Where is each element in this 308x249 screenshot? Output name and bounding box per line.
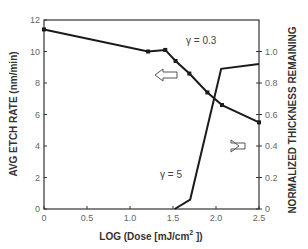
x-tick-label: 1.5 <box>167 213 180 223</box>
plot-frame <box>44 20 259 209</box>
x-tick-label: 0.5 <box>81 213 94 223</box>
y2-tick-label: 0.4 <box>265 141 278 151</box>
gamma-5-annotation: γ = 5 <box>160 169 182 180</box>
etch-rate-line <box>44 29 259 122</box>
series <box>42 27 261 209</box>
y-axis-label: AVG ETCH RATE (nm/min) <box>8 51 19 176</box>
data-point <box>146 50 150 54</box>
etch-rate-chart: 00.51.01.52.02.502468101200.20.40.60.81.… <box>0 0 308 249</box>
data-point <box>187 72 191 76</box>
data-point <box>42 27 46 31</box>
thickness-line <box>175 64 259 209</box>
y-tick-label: 10 <box>30 47 40 57</box>
y-tick-label: 0 <box>35 204 40 214</box>
y-tick-label: 2 <box>35 173 40 183</box>
x-axis-label: LOG (Dose [mJ/cm2 ]) <box>99 229 202 242</box>
y-tick-label: 8 <box>35 78 40 88</box>
x-tick-label: 1.0 <box>124 213 137 223</box>
axes: 00.51.01.52.02.502468101200.20.40.60.81.… <box>30 15 278 223</box>
y2-axis-label: NORMALIZED THICKNESS REMAINING <box>287 26 298 213</box>
right-arrow-icon <box>231 140 245 152</box>
data-point <box>257 120 261 124</box>
labels: AVG ETCH RATE (nm/min) NORMALIZED THICKN… <box>8 26 298 242</box>
data-point <box>174 59 178 63</box>
y2-tick-label: 0.2 <box>265 173 278 183</box>
x-tick-label: 2.0 <box>210 213 223 223</box>
y2-tick-label: 1.0 <box>265 47 278 57</box>
y2-tick-label: 0.6 <box>265 110 278 120</box>
y-tick-label: 6 <box>35 110 40 120</box>
y-tick-label: 4 <box>35 141 40 151</box>
x-tick-label: 0 <box>41 213 46 223</box>
x-tick-label: 2.5 <box>253 213 266 223</box>
gamma-0-3-annotation: γ = 0.3 <box>186 35 217 46</box>
data-point <box>163 48 167 52</box>
y-tick-label: 12 <box>30 15 40 25</box>
y2-tick-label: 0 <box>265 204 270 214</box>
left-arrow-icon <box>155 69 177 81</box>
data-point <box>220 103 224 107</box>
data-point <box>205 90 209 94</box>
y2-tick-label: 0.8 <box>265 78 278 88</box>
